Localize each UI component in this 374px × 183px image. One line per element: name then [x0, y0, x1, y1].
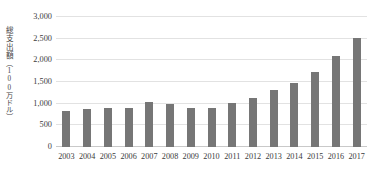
bar-slot — [263, 17, 284, 147]
x-axis-tick-label: 2017 — [346, 152, 367, 161]
x-axis-tick-label: 2013 — [263, 152, 284, 161]
bar — [353, 38, 361, 147]
x-axis-tick-labels: 2003200420052006200720082009201020112012… — [56, 152, 367, 161]
x-axis-tick-label: 2016 — [326, 152, 347, 161]
x-axis-tick-label: 2004 — [77, 152, 98, 161]
bar-slot — [97, 17, 118, 147]
y-axis-tick-label: 1,500 — [10, 78, 52, 86]
y-axis-tick-labels: 05001,0001,5002,0002,5003,000 — [10, 17, 52, 147]
bar-slot — [346, 17, 367, 147]
bar — [290, 83, 298, 147]
bar-slot — [180, 17, 201, 147]
bar — [187, 108, 195, 147]
x-axis-tick-label: 2007 — [139, 152, 160, 161]
bar-slot — [326, 17, 347, 147]
y-axis-tick-label: 2,500 — [10, 35, 52, 43]
bar — [83, 109, 91, 147]
bar — [125, 108, 133, 147]
bar — [270, 90, 278, 147]
x-axis-tick-label: 2006 — [118, 152, 139, 161]
y-axis-tick-label: 3,000 — [10, 13, 52, 21]
bar-slot — [222, 17, 243, 147]
y-axis-tick-label: 500 — [10, 121, 52, 129]
bar-slot — [243, 17, 264, 147]
x-axis-tick-label: 2009 — [180, 152, 201, 161]
x-axis-tick-label: 2012 — [243, 152, 264, 161]
bar — [166, 104, 174, 147]
bar-slot — [305, 17, 326, 147]
bar-slot — [160, 17, 181, 147]
y-axis-tick-label: 2,000 — [10, 56, 52, 64]
bar-slot — [118, 17, 139, 147]
bar-slot — [139, 17, 160, 147]
bar-slot — [56, 17, 77, 147]
bar-series — [56, 17, 367, 147]
x-axis-tick-label: 2015 — [305, 152, 326, 161]
y-axis-tick-label: 1,000 — [10, 100, 52, 108]
bar — [332, 56, 340, 147]
x-axis-tick-label: 2011 — [222, 152, 243, 161]
bar — [145, 102, 153, 147]
bar-slot — [284, 17, 305, 147]
bar — [249, 98, 257, 147]
bar — [104, 108, 112, 147]
x-axis-tick-label: 2010 — [201, 152, 222, 161]
bar — [62, 111, 70, 147]
x-axis-tick-label: 2003 — [56, 152, 77, 161]
x-axis-tick-label: 2014 — [284, 152, 305, 161]
bar — [228, 103, 236, 147]
bar-slot — [77, 17, 98, 147]
y-axis-tick-label: 0 — [10, 143, 52, 151]
bar-slot — [201, 17, 222, 147]
bar — [208, 108, 216, 147]
bar — [311, 72, 319, 147]
x-axis-tick-label: 2008 — [160, 152, 181, 161]
plot-area — [56, 17, 367, 147]
bar-chart: 総支出額 （100万ドル） 05001,0001,5002,0002,5003,… — [0, 0, 374, 183]
x-axis-tick-label: 2005 — [97, 152, 118, 161]
